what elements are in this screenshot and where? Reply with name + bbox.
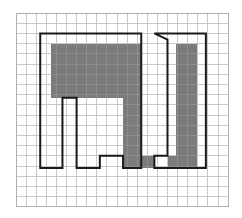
shaded-region-middle-strip	[123, 44, 141, 168]
shaded-region-right-block	[176, 44, 197, 168]
grid-shape-figure	[0, 0, 242, 218]
figure-root	[0, 0, 242, 218]
shaded-region-left-block	[51, 44, 123, 98]
